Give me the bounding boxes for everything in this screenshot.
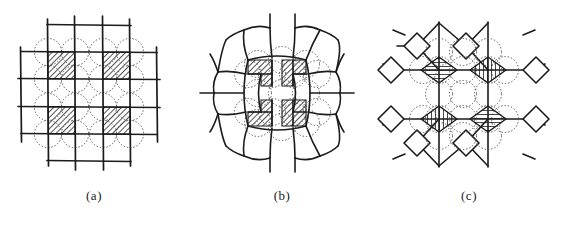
hatched-cells-a (48, 52, 130, 134)
diamond-nodes-c (378, 33, 549, 156)
hatched-cells-b (248, 60, 306, 126)
panel-c-caption: (c) (375, 188, 563, 204)
panel-b: (b) (188, 0, 376, 225)
grid-lines-b (200, 14, 354, 172)
hatched-diamonds-c (421, 57, 506, 132)
panel-b-diagram (188, 2, 376, 187)
figure-container: (a) (0, 0, 563, 225)
grid-lines-a (18, 16, 160, 170)
panel-a-caption: (a) (0, 188, 188, 204)
panel-b-caption: (b) (188, 188, 376, 204)
panel-c: (c) (375, 0, 563, 225)
panel-c-diagram (375, 2, 563, 187)
panel-a: (a) (0, 0, 188, 225)
panel-a-diagram (0, 2, 188, 187)
